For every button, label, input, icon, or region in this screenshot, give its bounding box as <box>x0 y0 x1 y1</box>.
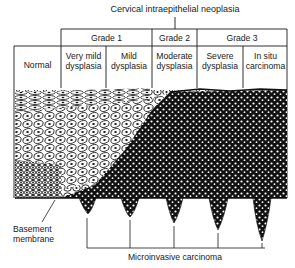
microinvasive-bracket <box>87 218 265 248</box>
basement-membrane-pointer <box>42 200 55 222</box>
invasion-bud-3 <box>166 198 183 223</box>
basement-membrane-line1: Basement <box>13 224 54 234</box>
stage-very-mild-dysplasia: Very mild dysplasia <box>61 51 106 71</box>
stage-label-line2: dysplasia <box>106 61 152 71</box>
stage-label-line1: Mild <box>106 51 152 61</box>
stage-label-line2: dysplasia <box>61 61 106 71</box>
stage-label-line1: Moderate <box>152 51 197 61</box>
invasion-bud-1 <box>79 198 96 214</box>
basement-membrane-label: Basement membrane <box>13 224 54 244</box>
stage-label-line1: Very mild <box>61 51 106 61</box>
stage-label-line2: carcinoma <box>243 61 288 71</box>
invasion-bud-5 <box>253 198 271 241</box>
stage-severe-dysplasia: Severe dysplasia <box>197 51 243 71</box>
epithelium-illustration <box>15 88 287 198</box>
microinvasive-carcinoma-label: Microinvasive carcinoma <box>110 252 240 262</box>
microinvasive-projections <box>79 198 271 241</box>
invasion-bud-4 <box>209 198 228 230</box>
invasion-bud-2 <box>121 198 139 217</box>
stage-in-situ-carcinoma: In situ carcinoma <box>243 51 288 71</box>
grade-2-header: Grade 2 <box>152 33 197 43</box>
stage-label-line1: In situ <box>243 51 288 61</box>
stage-label-line2: dysplasia <box>197 61 243 71</box>
basement-membrane-line2: membrane <box>13 234 54 244</box>
stage-label-line2: dysplasia <box>152 61 197 71</box>
stage-normal-label: Normal <box>14 60 61 70</box>
grade-3-header: Grade 3 <box>197 33 287 43</box>
stage-moderate-dysplasia: Moderate dysplasia <box>152 51 197 71</box>
stage-mild-dysplasia: Mild dysplasia <box>106 51 152 71</box>
stage-label-line1: Severe <box>197 51 243 61</box>
grade-1-header: Grade 1 <box>61 33 152 43</box>
diagram-title: Cervical intraepithelial neoplasia <box>100 4 250 14</box>
